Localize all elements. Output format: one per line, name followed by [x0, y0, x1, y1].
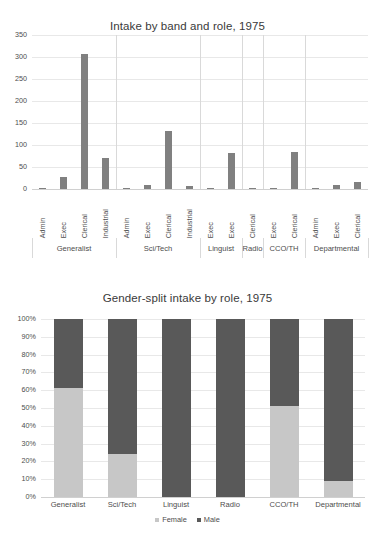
y-axis-tick-label: 100 — [15, 141, 27, 148]
chart-title-gender-split: Gender-split intake by role, 1975 — [0, 292, 375, 304]
stack-segment-male — [162, 319, 191, 497]
stack-segment-male — [216, 319, 245, 497]
gridline — [41, 497, 365, 498]
y-axis-tick-label: 50% — [22, 404, 36, 411]
stack-segment-female — [108, 454, 137, 497]
x-axis-group-label: Departmental — [305, 245, 368, 253]
x-axis-tick-label: Exec — [143, 222, 150, 238]
stack-segment-male — [324, 319, 353, 481]
x-axis-group-label: Sci/Tech — [116, 245, 200, 253]
y-axis-tick-label: 60% — [22, 387, 36, 394]
legend-swatch-female — [155, 518, 159, 522]
y-axis-tick-label: 100% — [18, 315, 36, 322]
x-axis-tick-label: Clerical — [80, 214, 87, 238]
stacked-bar — [324, 319, 353, 497]
x-axis-tick-label: Exec — [59, 222, 66, 238]
chart-gender-split-intake-by-role: Gender-split intake by role, 1975 0%10%2… — [0, 272, 375, 541]
plot-area-gender-split: 0%10%20%30%40%50%60%70%80%90%100% — [41, 319, 365, 497]
legend-item-female: Female — [155, 516, 187, 523]
x-axis-group-label: Linguist — [200, 245, 242, 253]
bar — [60, 177, 67, 189]
stacked-bar — [54, 319, 83, 497]
group-separator — [242, 35, 243, 189]
x-axis-tick-label: Clerical — [290, 214, 297, 238]
stack-segment-male — [54, 319, 83, 388]
y-axis-tick-label: 300 — [15, 53, 27, 60]
legend-label: Male — [204, 515, 220, 524]
y-axis-tick-label: 150 — [15, 119, 27, 126]
stacked-bar — [108, 319, 137, 497]
stack-segment-male — [108, 319, 137, 454]
y-axis-tick-label: 50 — [19, 163, 27, 170]
y-axis-tick-label: 80% — [22, 351, 36, 358]
bar — [270, 188, 277, 189]
x-axis-tick-label: Clerical — [353, 214, 360, 238]
group-separator — [263, 35, 264, 189]
chart-intake-by-band-and-role: Intake by band and role, 1975 0501001502… — [0, 0, 375, 272]
group-separator — [116, 35, 117, 189]
bar — [102, 158, 109, 189]
bar — [144, 185, 151, 189]
x-axis-tick-label: Linguist — [149, 501, 203, 509]
y-axis-tick-label: 30% — [22, 440, 36, 447]
y-axis-tick-label: 200 — [15, 97, 27, 104]
x-axis-tick-label: Clerical — [248, 214, 255, 238]
x-axis-group-label: Generalist — [32, 245, 116, 253]
x-axis-tick-label: Generalist — [41, 501, 95, 509]
x-axis-tick-label: CCO/TH — [257, 501, 311, 509]
legend-swatch-male — [197, 518, 201, 522]
stacked-bars-gender-split — [41, 319, 365, 497]
x-axis-tick-label: Exec — [227, 222, 234, 238]
x-axis-tick-label: Admin — [311, 218, 318, 238]
x-axis-tick-label: Radio — [203, 501, 257, 509]
x-axis-tick-label: Industrial — [185, 209, 192, 238]
x-axis-tick-label: Exec — [332, 222, 339, 238]
y-axis-tick-label: 40% — [22, 422, 36, 429]
y-axis-tick-label: 70% — [22, 369, 36, 376]
x-axis-tick-label: Departmental — [311, 501, 365, 509]
x-axis-group-label: CCO/TH — [263, 245, 305, 253]
x-axis-tick-label: Admin — [38, 218, 45, 238]
x-axis-tick-label: Admin — [122, 218, 129, 238]
bar — [186, 186, 193, 189]
y-axis-tick-label: 0% — [26, 493, 36, 500]
x-axis-tick-label: Sci/Tech — [95, 501, 149, 509]
bar — [165, 131, 172, 189]
bar — [207, 188, 214, 189]
y-axis-tick-label: 250 — [15, 75, 27, 82]
y-axis-tick-label: 90% — [22, 333, 36, 340]
group-tick — [368, 238, 369, 258]
y-axis-tick-label: 20% — [22, 458, 36, 465]
bar — [123, 188, 130, 189]
chart-title-intake-by-band: Intake by band and role, 1975 — [0, 20, 375, 32]
bar — [228, 153, 235, 189]
stack-segment-female — [270, 406, 299, 497]
bar — [354, 182, 361, 189]
x-axis-band-labels: AdminExecClericalIndustrialAdminExecCler… — [32, 190, 368, 238]
bar — [81, 54, 88, 189]
legend-label: Female — [162, 515, 187, 524]
group-separator — [305, 35, 306, 189]
x-axis-tick-label: Exec — [269, 222, 276, 238]
bar — [312, 188, 319, 189]
stacked-bar — [162, 319, 191, 497]
y-axis-tick-label: 350 — [15, 31, 27, 38]
y-axis-tick-label: 0 — [23, 185, 27, 192]
stack-segment-male — [270, 319, 299, 406]
plot-area-intake-by-band: 050100150200250300350 — [32, 35, 368, 189]
group-separator — [200, 35, 201, 189]
bar — [249, 188, 256, 189]
stacked-bar — [270, 319, 299, 497]
x-axis-tick-label: Industrial — [101, 209, 108, 238]
bar — [39, 188, 46, 189]
legend-gender-split: FemaleMale — [0, 516, 375, 523]
y-axis-tick-label: 10% — [22, 476, 36, 483]
x-axis-group-labels: GeneralistSci/TechLinguistRadioCCO/THDep… — [32, 238, 368, 262]
bar — [291, 152, 298, 189]
x-axis-tick-label: Exec — [206, 222, 213, 238]
x-axis-group-label: Radio — [242, 245, 263, 253]
stack-segment-female — [54, 388, 83, 497]
legend-item-male: Male — [197, 516, 220, 523]
x-axis-tick-label: Clerical — [164, 214, 171, 238]
stack-segment-female — [324, 481, 353, 497]
